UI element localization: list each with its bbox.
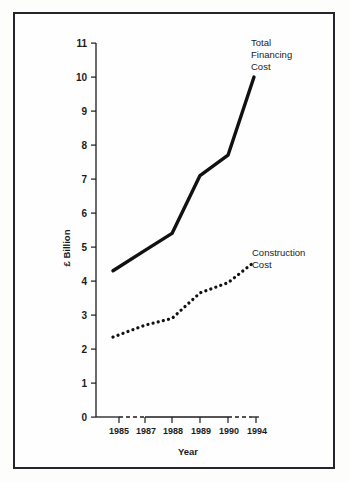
annotation-total-financing-cost: Total Financing Cost bbox=[251, 37, 292, 72]
y-tick-label-8: 8 bbox=[81, 140, 87, 151]
y-tick-label-5: 5 bbox=[81, 242, 87, 253]
x-tick-label-1989: 1989 bbox=[191, 426, 211, 436]
x-tick-label-1990: 1990 bbox=[219, 426, 239, 436]
annotation-total-financing-line1: Total bbox=[251, 37, 271, 48]
y-tick-label-3: 3 bbox=[81, 310, 87, 321]
y-tick-label-0: 0 bbox=[81, 412, 87, 423]
y-tick-label-2: 2 bbox=[81, 344, 87, 355]
y-tick-label-4: 4 bbox=[81, 276, 87, 287]
y-tick-label-9: 9 bbox=[81, 106, 87, 117]
series-line-total-financing-cost bbox=[113, 77, 254, 271]
annotation-total-financing-line2: Financing bbox=[251, 49, 292, 60]
y-tick-label-1: 1 bbox=[81, 378, 87, 389]
annotation-total-financing-line3: Cost bbox=[251, 61, 271, 72]
y-axis-ticks bbox=[91, 43, 96, 417]
x-tick-label-1985: 1985 bbox=[109, 426, 129, 436]
y-tick-label-6: 6 bbox=[81, 208, 87, 219]
y-tick-label-7: 7 bbox=[81, 174, 87, 185]
x-tick-label-1994: 1994 bbox=[247, 426, 267, 436]
x-tick-label-1988: 1988 bbox=[163, 426, 183, 436]
series-line-construction-cost bbox=[113, 262, 254, 337]
y-tick-label-10: 10 bbox=[76, 72, 88, 83]
annotation-construction-cost: Construction Cost bbox=[252, 247, 305, 270]
y-tick-label-11: 11 bbox=[76, 38, 87, 49]
line-chart: 11 10 9 8 7 6 5 4 3 2 1 0 £ Billion 1985… bbox=[0, 0, 349, 482]
chart-page: 11 10 9 8 7 6 5 4 3 2 1 0 £ Billion 1985… bbox=[0, 0, 349, 482]
annotation-construction-line2: Cost bbox=[252, 259, 272, 270]
x-tick-label-1987: 1987 bbox=[136, 426, 156, 436]
y-axis-title: £ Billion bbox=[61, 229, 72, 266]
x-axis-title: Year bbox=[178, 446, 198, 457]
x-axis-ticks bbox=[119, 417, 256, 423]
annotation-construction-line1: Construction bbox=[252, 247, 305, 258]
